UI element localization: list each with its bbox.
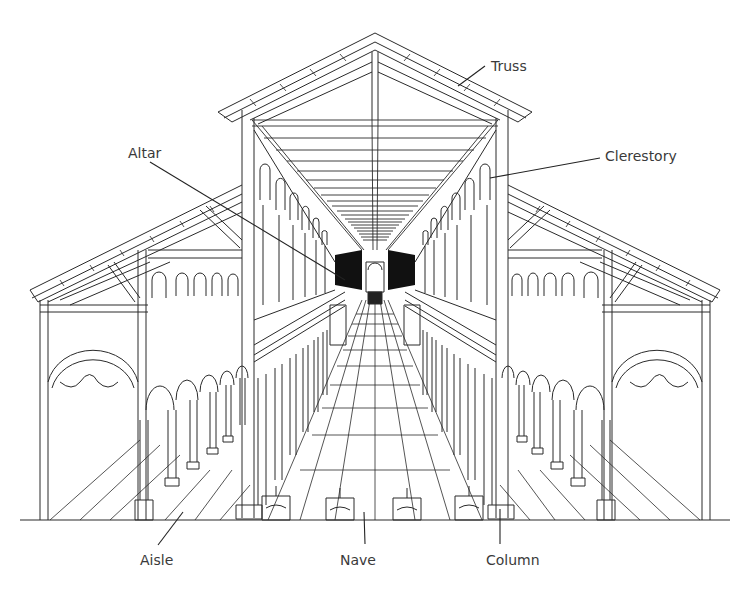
apse-vanishing-point	[335, 250, 415, 304]
aisle-leader	[158, 512, 183, 545]
nave-ceiling-beams	[252, 120, 498, 250]
nave-colonnade-right	[404, 292, 514, 519]
aisle-roof-right	[508, 185, 720, 312]
label-altar: Altar	[128, 145, 161, 161]
label-column: Column	[486, 552, 540, 568]
aisle-roof-left	[30, 185, 242, 312]
label-nave: Nave	[340, 552, 376, 568]
floor-grid	[20, 300, 730, 520]
clerestory-leader	[490, 158, 600, 178]
floor-tombs	[262, 486, 483, 520]
label-truss: Truss	[491, 58, 527, 74]
basilica-illustration	[0, 0, 746, 600]
nave-roof	[218, 33, 532, 124]
nave-leader	[364, 512, 365, 544]
truss-leader	[458, 66, 485, 86]
nave-colonnade-left	[236, 292, 346, 519]
basilica-diagram: Truss Altar Clerestory Aisle Nave Column	[0, 0, 746, 600]
label-clerestory: Clerestory	[605, 148, 677, 164]
aisle-colonnade-right	[502, 366, 615, 520]
label-aisle: Aisle	[140, 552, 173, 568]
aisle-colonnade-left	[135, 366, 248, 520]
